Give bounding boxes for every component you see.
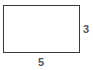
height-label: 3 (83, 24, 89, 35)
width-label: 5 (38, 57, 44, 68)
rectangle-shape (3, 5, 80, 53)
